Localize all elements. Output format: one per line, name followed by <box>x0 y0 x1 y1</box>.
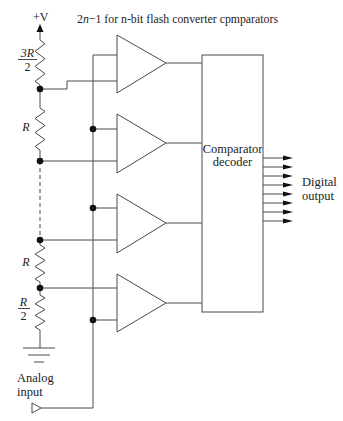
svg-text:R: R <box>19 295 28 309</box>
resistor-label-r-2: R 2 <box>18 295 30 323</box>
resistor-label-3r-2: 3R 2 <box>18 46 37 74</box>
resistor-r-bottom <box>35 240 45 288</box>
reference-taps <box>40 81 117 288</box>
resistor-ladder <box>23 32 55 362</box>
resistor-r-2 <box>35 288 45 348</box>
input-label-line1: Analog <box>17 371 55 385</box>
ground-icon <box>23 348 55 362</box>
analog-input-terminal-icon <box>32 403 41 413</box>
output-label-line2: output <box>302 189 334 203</box>
bus-taps <box>93 129 117 320</box>
comparator-icon <box>117 35 166 93</box>
diagram-title: 2n−1 for n-bit flash converter cpmparato… <box>77 11 278 26</box>
analog-input-bus <box>32 55 117 413</box>
supply-label: +V <box>33 10 49 24</box>
svg-text:2: 2 <box>25 60 31 74</box>
svg-text:3R: 3R <box>20 46 35 60</box>
digital-output-arrows <box>263 156 293 224</box>
comparator-icon <box>117 114 166 173</box>
decoder-label-line1: Comparator <box>203 142 264 156</box>
input-label-line2: input <box>17 385 43 399</box>
comparator-icon <box>117 274 166 332</box>
comparator-decoder: Comparator decoder <box>202 55 263 312</box>
resistor-label-r-top: R <box>21 120 30 134</box>
resistor-r-top <box>35 89 45 161</box>
flash-adc-diagram: 2n−1 for n-bit flash converter cpmparato… <box>0 0 343 421</box>
resistor-3r-2 <box>35 32 45 89</box>
svg-text:2: 2 <box>21 309 27 323</box>
comparator-icon <box>117 194 166 253</box>
decoder-label-line2: decoder <box>213 155 253 169</box>
supply-arrow-icon <box>37 24 44 32</box>
resistor-label-r-bottom: R <box>21 255 30 269</box>
output-label-line1: Digital <box>302 175 337 189</box>
comparators <box>117 35 202 332</box>
